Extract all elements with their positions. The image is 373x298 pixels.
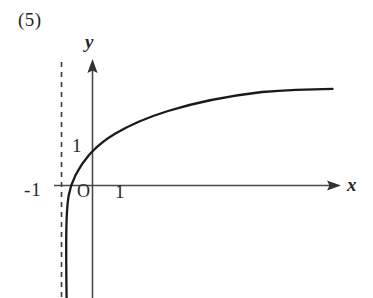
x-tick-label-negative-1: -1 — [24, 180, 42, 199]
figure-container: (5) y x 1 -1 O 1 — [0, 0, 373, 298]
item-number-label: (5) — [18, 10, 42, 29]
origin-label: O — [77, 182, 90, 200]
y-axis-label: y — [85, 32, 93, 51]
graph-canvas — [0, 0, 373, 298]
log-curve-path — [66, 89, 332, 298]
x-tick-label-1: 1 — [115, 182, 125, 201]
x-axis-label: x — [347, 175, 357, 194]
y-tick-label-1: 1 — [72, 136, 82, 155]
